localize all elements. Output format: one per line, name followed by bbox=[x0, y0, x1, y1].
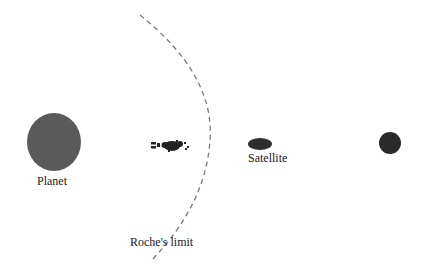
satellite-label: Satellite bbox=[248, 151, 287, 166]
planet-label: Planet bbox=[37, 174, 67, 189]
satellite-body bbox=[248, 138, 272, 150]
roche-limit-label: Roche's limit bbox=[130, 235, 193, 250]
debris-fragments bbox=[151, 140, 189, 152]
roche-limit-arc bbox=[140, 15, 210, 262]
distant-moon bbox=[379, 132, 401, 154]
diagram-canvas bbox=[0, 0, 423, 268]
planet-body bbox=[27, 113, 81, 171]
